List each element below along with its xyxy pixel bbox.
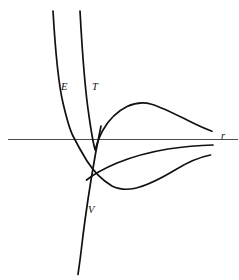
curve-E xyxy=(53,11,211,189)
curve-label-V: V xyxy=(88,205,94,216)
energy-partition-figure: E T V r xyxy=(0,0,239,280)
curve-label-E: E xyxy=(61,82,67,93)
r-axis-label: r xyxy=(221,131,225,142)
curve-V-descending xyxy=(78,126,101,275)
curve-label-T: T xyxy=(92,82,98,93)
plot-canvas xyxy=(0,0,239,280)
curve-V-rising xyxy=(87,145,214,180)
